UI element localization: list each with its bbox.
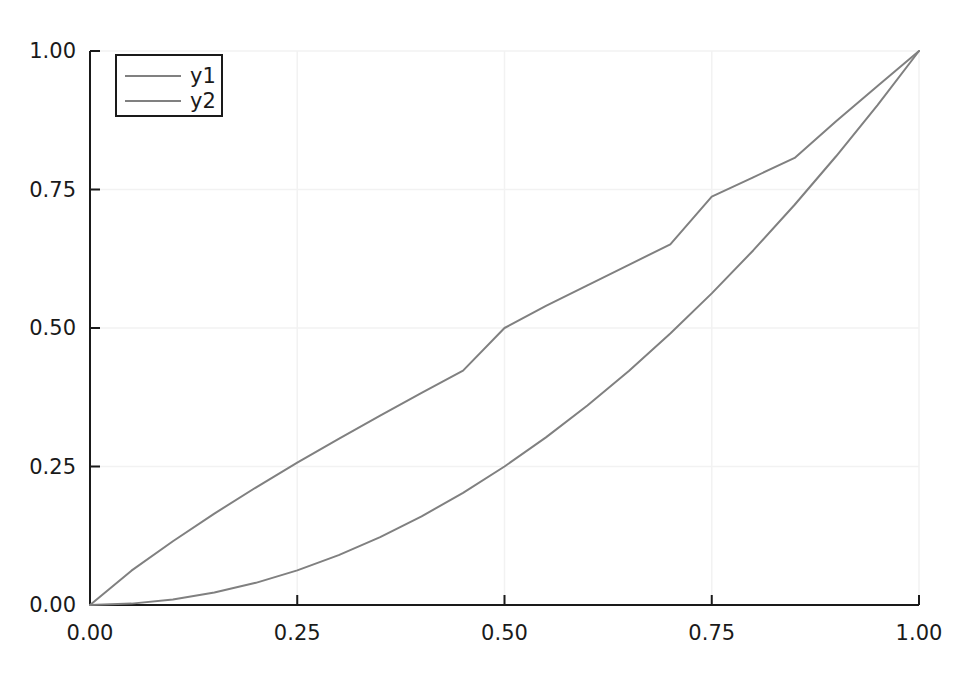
x-tick-label: 0.00 <box>67 621 114 645</box>
y-tick-label: 0.50 <box>29 316 76 340</box>
y-tick-label: 0.75 <box>29 178 76 202</box>
legend-label: y1 <box>190 65 216 87</box>
legend-label: y2 <box>190 90 216 112</box>
y-tick-label: 1.00 <box>29 39 76 63</box>
legend-line-swatch <box>125 100 181 102</box>
y-tick-label: 0.25 <box>29 455 76 479</box>
x-tick-label: 0.50 <box>481 621 528 645</box>
legend-entry-y1[interactable]: y1 <box>125 65 216 87</box>
legend-line-swatch <box>125 75 181 77</box>
x-tick-label: 1.00 <box>896 621 943 645</box>
legend-entry-y2[interactable]: y2 <box>125 90 216 112</box>
chart-figure: 0.000.250.500.751.00 0.000.250.500.751.0… <box>0 0 962 678</box>
y-tick-label: 0.00 <box>29 593 76 617</box>
legend[interactable]: y1y2 <box>115 54 223 117</box>
x-tick-label: 0.75 <box>688 621 735 645</box>
x-tick-label: 0.25 <box>274 621 321 645</box>
